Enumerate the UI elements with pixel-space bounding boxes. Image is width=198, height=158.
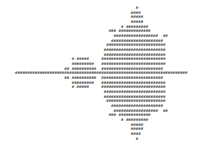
mandelbrot-ascii-art: # #### ##### ##### # — [15, 6, 188, 141]
art-row: # — [15, 137, 188, 142]
